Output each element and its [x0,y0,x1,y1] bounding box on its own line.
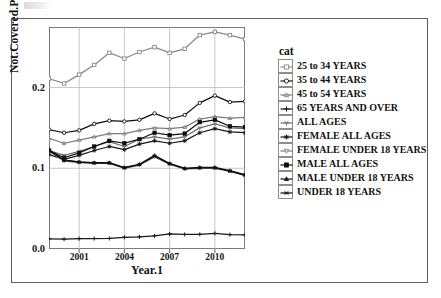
legend-item[interactable]: 35 to 44 YEARS [278,73,424,87]
scan-artifact [24,2,60,9]
legend-item[interactable]: FEMALE UNDER 18 YEARS [278,143,424,157]
legend: cat 25 to 34 YEARS35 to 44 YEARS45 to 54… [278,45,424,199]
x-tick-label: 2010 [205,253,224,263]
x-tick-label: 2007 [160,253,179,263]
legend-item[interactable]: MALE UNDER 18 YEARS [278,171,424,185]
legend-item[interactable]: 25 to 34 YEARS [278,59,424,73]
series-3 [49,231,245,241]
legend-item-label: 45 to 54 YEARS [297,89,366,99]
x-tick-label: 2001 [70,253,89,263]
y-axis-title: Not.Covered.Pct [8,0,20,73]
plot-area-wrapper [49,27,245,249]
legend-marker-tri-up-filled-icon [278,171,293,185]
legend-item[interactable]: UNDER 18 YEARS [278,185,424,199]
x-axis-title: Year.1 [49,263,245,278]
y-tick-label: 0.2 [32,83,45,94]
legend-marker-y-down-icon [278,115,293,129]
y-tick-label: 0.0 [32,244,45,255]
legend-items: 25 to 34 YEARS35 to 44 YEARS45 to 54 YEA… [278,59,424,199]
series-0 [49,30,245,85]
legend-item-label: FEMALE UNDER 18 YEARS [297,145,426,155]
legend-item-label: MALE ALL AGES [297,159,378,169]
legend-marker-tri-down-open-icon [278,143,293,157]
legend-marker-circle-open-icon [278,73,293,87]
legend-title: cat [279,45,424,57]
legend-marker-triangle-open-icon [278,87,293,101]
chart-canvas [49,27,245,249]
legend-item[interactable]: 65 YEARS AND OVER [278,101,424,115]
legend-item[interactable]: FEMALE ALL AGES [278,129,424,143]
legend-item-label: MALE UNDER 18 YEARS [297,173,414,183]
legend-item[interactable]: MALE ALL AGES [278,157,424,171]
legend-item-label: UNDER 18 YEARS [297,187,381,197]
y-tick-label: 0.1 [32,163,45,174]
legend-item-label: 25 to 34 YEARS [297,61,366,71]
legend-item-label: 35 to 44 YEARS [297,75,366,85]
legend-item-label: ALL AGES [297,117,346,127]
legend-item[interactable]: 45 to 54 YEARS [278,87,424,101]
x-tick-label: 2004 [115,253,134,263]
legend-marker-square-filled-icon [278,157,293,171]
legend-item-label: FEMALE ALL AGES [297,131,391,141]
legend-marker-star-icon [278,129,293,143]
legend-marker-plus-icon [278,101,293,115]
legend-item-label: 65 YEARS AND OVER [297,103,398,113]
legend-marker-asterisk-icon [278,185,293,199]
legend-item[interactable]: ALL AGES [278,115,424,129]
figure-frame: 0.00.10.2 Not.Covered.Pct 20012004200720… [11,18,428,283]
legend-marker-square-open-icon [278,59,293,73]
